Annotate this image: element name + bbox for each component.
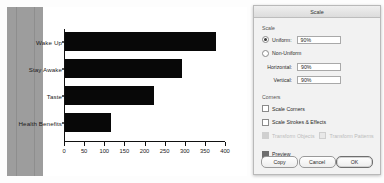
vertical-row[interactable]: Vertical: 90%: [262, 76, 372, 85]
checkbox-scale-strokes-icon[interactable]: [262, 119, 269, 126]
transform-objects-label: Transform Objects: [272, 133, 314, 139]
bar-health-benefits[interactable]: [65, 113, 111, 132]
uniform-input[interactable]: 90%: [297, 36, 341, 44]
x-axis-tick-label: 50: [81, 148, 87, 154]
dialog-titlebar: Scale: [254, 6, 380, 18]
cancel-button[interactable]: Cancel: [299, 156, 336, 168]
nonuniform-row[interactable]: Non-Uniform: [262, 49, 372, 58]
category-label: Wake Up: [36, 38, 62, 45]
dialog-button-row: Copy Cancel OK: [261, 156, 373, 168]
chart-plot-area: Wake Up Stay Awake Taste Health Benefits…: [64, 29, 225, 142]
artboard-grey-band: [7, 7, 43, 176]
vertical-input[interactable]: 90%: [297, 76, 341, 84]
bar-chart: Wake Up Stay Awake Taste Health Benefits…: [43, 7, 247, 176]
uniform-row[interactable]: Uniform: 90%: [262, 35, 372, 44]
x-axis-tick-label: 400: [220, 148, 230, 154]
x-axis-tick: [64, 142, 65, 146]
scale-strokes-label: Scale Strokes & Effects: [272, 119, 326, 125]
x-axis-tick: [165, 142, 166, 146]
dialog-body: Scale Uniform: 90% Non-Uniform Horizonta…: [254, 18, 380, 175]
vertical-label: Vertical:: [262, 77, 292, 83]
nonuniform-label: Non-Uniform: [272, 50, 301, 56]
checkbox-transform-patterns-icon: [319, 132, 326, 139]
x-axis-tick-label: 300: [180, 148, 190, 154]
bar-row[interactable]: Stay Awake: [65, 59, 182, 78]
category-label: Stay Awake: [29, 65, 62, 72]
x-axis-tick: [104, 142, 105, 146]
illustrator-canvas: Wake Up Stay Awake Taste Health Benefits…: [0, 0, 384, 183]
x-axis-tick-label: 250: [160, 148, 170, 154]
transform-row: Transform Objects Transform Patterns: [262, 131, 372, 140]
band-guide-line: [34, 7, 35, 176]
x-axis-tick: [145, 142, 146, 146]
radio-nonuniform-icon[interactable]: [262, 50, 269, 57]
x-axis-tick: [185, 142, 186, 146]
x-axis-tick-label: 350: [200, 148, 210, 154]
copy-button[interactable]: Copy: [261, 156, 298, 168]
category-anchor: [62, 95, 64, 97]
bar-stay-awake[interactable]: [65, 59, 182, 78]
x-axis-tick-label: 200: [140, 148, 150, 154]
x-axis-tick-label: 100: [99, 148, 109, 154]
scale-dialog[interactable]: Scale Scale Uniform: 90% Non-Uniform Hor…: [253, 5, 381, 175]
band-guide-line: [16, 7, 17, 176]
radio-uniform-icon[interactable]: [262, 36, 269, 43]
transform-patterns-label: Transform Patterns: [329, 133, 373, 139]
scale-corners-label: Scale Corners: [272, 106, 305, 112]
x-axis-tick: [84, 142, 85, 146]
horizontal-label: Horizontal:: [262, 64, 292, 70]
ok-button[interactable]: OK: [336, 156, 373, 168]
bar-taste[interactable]: [65, 86, 154, 105]
scale-section-heading: Scale: [262, 25, 372, 31]
bar-row[interactable]: Taste: [65, 86, 154, 105]
category-label: Health Benefits: [19, 119, 62, 126]
bar-row[interactable]: Wake Up: [65, 32, 216, 51]
category-anchor: [62, 68, 64, 70]
horizontal-input[interactable]: 90%: [297, 63, 341, 71]
x-axis-tick: [225, 142, 226, 146]
checkbox-transform-objects-icon: [262, 132, 269, 139]
scale-strokes-row[interactable]: Scale Strokes & Effects: [262, 118, 372, 127]
bar-row[interactable]: Health Benefits: [65, 113, 111, 132]
category-anchor: [62, 122, 64, 124]
x-axis-tick: [205, 142, 206, 146]
x-axis-tick-label: 150: [120, 148, 130, 154]
x-axis-tick-label: 0: [62, 148, 65, 154]
category-label: Taste: [47, 92, 62, 99]
horizontal-row[interactable]: Horizontal: 90%: [262, 62, 372, 71]
x-axis-tick: [124, 142, 125, 146]
checkbox-scale-corners-icon[interactable]: [262, 105, 269, 112]
scale-corners-row[interactable]: Scale Corners: [262, 104, 372, 113]
bar-wake-up[interactable]: [65, 32, 216, 51]
uniform-label: Uniform:: [272, 37, 292, 43]
category-anchor: [62, 41, 64, 43]
options-section-heading: Corners: [262, 94, 372, 100]
dialog-title: Scale: [310, 9, 324, 15]
